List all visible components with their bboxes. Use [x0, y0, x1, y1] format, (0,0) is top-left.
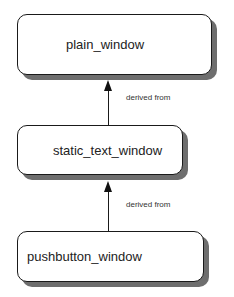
- arrowhead-up-icon: [104, 181, 112, 192]
- edge-label-1: derived from: [126, 93, 170, 102]
- node-pushbutton-window: pushbutton_window: [17, 231, 204, 282]
- node-plain-window: plain_window: [17, 14, 212, 75]
- node-box: static_text_window: [17, 125, 183, 175]
- node-static-text-window: static_text_window: [17, 125, 183, 175]
- edge-line-1: [108, 88, 109, 125]
- node-box: pushbutton_window: [17, 231, 204, 282]
- edge-line-2: [108, 189, 109, 231]
- arrowhead-up-icon: [104, 80, 112, 91]
- node-box: plain_window: [17, 14, 212, 75]
- node-label: static_text_window: [53, 143, 162, 158]
- node-label: pushbutton_window: [27, 249, 142, 264]
- edge-label-2: derived from: [126, 200, 170, 209]
- node-label: plain_window: [66, 37, 144, 52]
